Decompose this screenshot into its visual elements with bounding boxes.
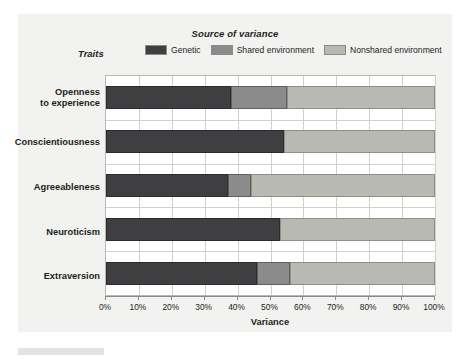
x-axis-tick-label: 20% bbox=[162, 302, 179, 312]
y-label-extraversion-line1: Extraversion bbox=[44, 271, 100, 281]
chart-figure: Source of variance Traits Genetic Shared… bbox=[0, 0, 468, 360]
x-axis-tick-label: 90% bbox=[393, 302, 410, 312]
bar-segment-nonshared-environment bbox=[287, 86, 435, 109]
gridline-horizontal bbox=[106, 207, 435, 208]
gridline-horizontal bbox=[106, 120, 435, 121]
y-label-neuroticism: Neuroticism bbox=[12, 227, 100, 238]
x-axis-title: Variance bbox=[105, 316, 435, 327]
bar-row bbox=[106, 130, 435, 153]
y-label-extraversion: Extraversion bbox=[12, 271, 100, 282]
y-label-openness-line1: Openness bbox=[55, 87, 100, 97]
x-axis-tick bbox=[138, 296, 139, 300]
x-axis-tick bbox=[368, 296, 369, 300]
bar-segment-shared-environment bbox=[257, 262, 290, 285]
legend-item-shared-environment: Shared environment bbox=[211, 45, 314, 55]
bar-segment-genetic bbox=[106, 86, 231, 109]
y-label-agreeableness-line1: Agreeableness bbox=[34, 182, 100, 192]
bar-segment-genetic bbox=[106, 174, 228, 197]
footer-strip bbox=[18, 348, 104, 355]
gridline-vertical bbox=[435, 76, 436, 295]
legend-title: Source of variance bbox=[18, 28, 452, 39]
x-axis-tick bbox=[434, 296, 435, 300]
x-axis-tick-label: 100% bbox=[423, 302, 444, 312]
y-label-neuroticism-line1: Neuroticism bbox=[46, 227, 100, 237]
x-axis-tick bbox=[171, 296, 172, 300]
x-axis-tick bbox=[204, 296, 205, 300]
x-axis-tick bbox=[270, 296, 271, 300]
bar-row bbox=[106, 218, 435, 241]
legend-items: Genetic Shared environment Nonshared env… bbox=[145, 45, 442, 55]
x-axis-tick-label: 60% bbox=[294, 302, 311, 312]
bar-segment-nonshared-environment bbox=[280, 218, 435, 241]
bar-segment-shared-environment bbox=[231, 86, 287, 109]
legend-label-genetic: Genetic bbox=[171, 45, 201, 55]
legend-item-genetic: Genetic bbox=[145, 45, 201, 55]
gridline-horizontal bbox=[106, 164, 435, 165]
legend-label-nonshared-environment: Nonshared environment bbox=[350, 45, 442, 55]
gridline-horizontal bbox=[106, 251, 435, 252]
bar-segment-nonshared-environment bbox=[290, 262, 435, 285]
x-axis-tick-label: 10% bbox=[130, 302, 147, 312]
bar-row bbox=[106, 262, 435, 285]
y-label-openness: Openness to experience bbox=[12, 87, 100, 109]
y-axis-labels: Openness to experience Conscientiousness… bbox=[10, 75, 100, 294]
x-axis-tick bbox=[302, 296, 303, 300]
legend-label-shared-environment: Shared environment bbox=[237, 45, 314, 55]
traits-axis-label: Traits bbox=[78, 48, 104, 59]
x-axis-tick bbox=[105, 296, 106, 300]
x-axis-tick bbox=[401, 296, 402, 300]
x-axis-tick-label: 40% bbox=[228, 302, 245, 312]
y-label-conscientiousness: Conscientiousness bbox=[12, 137, 100, 148]
bar-segment-nonshared-environment bbox=[251, 174, 435, 197]
x-axis-tick-label: 70% bbox=[327, 302, 344, 312]
x-axis-tick-label: 80% bbox=[360, 302, 377, 312]
legend-swatch-genetic bbox=[145, 45, 167, 55]
x-axis-tick-label: 50% bbox=[261, 302, 278, 312]
legend-swatch-nonshared-environment bbox=[324, 45, 346, 55]
chart-legend: Source of variance Traits Genetic Shared… bbox=[18, 18, 452, 76]
y-label-conscientiousness-line1: Conscientiousness bbox=[15, 137, 100, 147]
bar-segment-nonshared-environment bbox=[284, 130, 435, 153]
bar-segment-genetic bbox=[106, 130, 284, 153]
x-axis-tick bbox=[335, 296, 336, 300]
plot-area bbox=[105, 75, 436, 296]
bar-segment-genetic bbox=[106, 218, 280, 241]
bar-row bbox=[106, 174, 435, 197]
bar-row bbox=[106, 86, 435, 109]
y-label-agreeableness: Agreeableness bbox=[12, 182, 100, 193]
x-axis-tick-label: 30% bbox=[195, 302, 212, 312]
legend-item-nonshared-environment: Nonshared environment bbox=[324, 45, 442, 55]
bar-segment-shared-environment bbox=[228, 174, 251, 197]
x-axis-tick-label: 0% bbox=[99, 302, 111, 312]
legend-swatch-shared-environment bbox=[211, 45, 233, 55]
y-label-openness-line2: to experience bbox=[40, 98, 100, 108]
bar-segment-genetic bbox=[106, 262, 257, 285]
x-axis-tick bbox=[237, 296, 238, 300]
